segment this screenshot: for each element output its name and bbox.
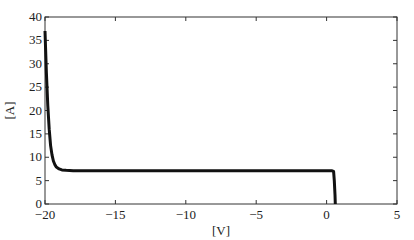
y-tick-label: 40 bbox=[29, 9, 42, 24]
x-tick-label: 5 bbox=[394, 207, 401, 222]
x-tick-label: −5 bbox=[249, 207, 263, 222]
y-tick-label: 20 bbox=[29, 103, 42, 118]
x-axis-label: [V] bbox=[212, 223, 230, 238]
y-tick-label: 30 bbox=[29, 56, 42, 71]
x-tick-label: −15 bbox=[105, 207, 125, 222]
y-tick-label: 35 bbox=[29, 32, 42, 47]
y-tick-label: 15 bbox=[29, 126, 42, 141]
x-tick-label: 0 bbox=[323, 207, 330, 222]
y-tick-label: 0 bbox=[36, 196, 43, 211]
iv-curve-chart: −20−15−10−505 0510152025303540 [V] [A] bbox=[0, 0, 414, 240]
y-axis-label: [A] bbox=[2, 101, 17, 119]
x-tick-label: −10 bbox=[176, 207, 196, 222]
y-tick-label: 25 bbox=[29, 79, 42, 94]
plot-area bbox=[45, 17, 397, 204]
y-tick-label: 10 bbox=[29, 149, 42, 164]
y-tick-label: 5 bbox=[36, 173, 43, 188]
